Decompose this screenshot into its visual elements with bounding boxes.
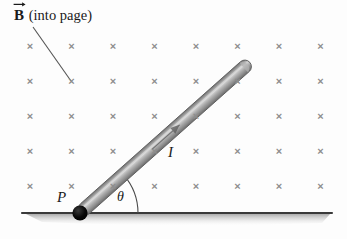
field-into-page-mark: × [110,41,116,52]
current-label: I [168,145,173,160]
field-into-page-mark: × [317,41,323,52]
pivot-point [72,205,87,220]
field-into-page-mark: × [110,76,116,87]
field-into-page-mark: × [193,41,199,52]
field-note-text: (into page) [29,7,92,23]
field-into-page-mark: × [317,181,323,192]
field-into-page-mark: × [27,181,33,192]
field-into-page-mark: × [193,181,199,192]
field-into-page-mark: × [27,146,33,157]
field-into-page-mark: × [68,111,74,122]
field-into-page-mark: × [151,181,157,192]
field-into-page-mark: × [68,146,74,157]
field-into-page-mark: × [151,146,157,157]
angle-label: θ [117,190,124,204]
field-into-page-mark: × [151,76,157,87]
ground-shadow [26,214,330,225]
field-into-page-mark: × [68,76,74,87]
vector-arrow-icon [13,0,26,7]
field-into-page-mark: × [317,146,323,157]
field-into-page-mark: × [317,76,323,87]
diagram-canvas [0,0,347,239]
current-carrying-rod [76,57,255,218]
field-into-page-mark: × [27,111,33,122]
field-into-page-mark: × [276,41,282,52]
field-symbol-text: B [14,7,24,23]
field-into-page-mark: × [234,111,240,122]
field-into-page-mark: × [110,111,116,122]
field-into-page-mark: × [317,111,323,122]
field-into-page-mark: × [234,76,240,87]
field-label: B (into page) [14,8,92,23]
field-into-page-mark: × [276,181,282,192]
field-into-page-mark: × [234,146,240,157]
field-into-page-mark: × [151,111,157,122]
field-into-page-mark: × [276,146,282,157]
field-into-page-mark: × [276,76,282,87]
leader-line [33,27,71,81]
field-into-page-mark: × [193,146,199,157]
field-into-page-mark: × [193,76,199,87]
field-into-page-mark: × [151,41,157,52]
field-into-page-mark: × [68,41,74,52]
field-into-page-mark: × [110,181,116,192]
physics-diagram: ××××××××××××××××××××××××××××××××××××××××… [0,0,347,239]
field-into-page-mark: × [27,76,33,87]
field-symbol-B: B [14,7,29,23]
field-into-page-mark: × [234,41,240,52]
field-into-page-mark: × [234,181,240,192]
field-into-page-mark: × [27,41,33,52]
field-into-page-mark: × [193,111,199,122]
field-into-page-mark: × [68,181,74,192]
field-into-page-mark: × [110,146,116,157]
pivot-label: P [57,190,66,205]
field-into-page-mark: × [276,111,282,122]
